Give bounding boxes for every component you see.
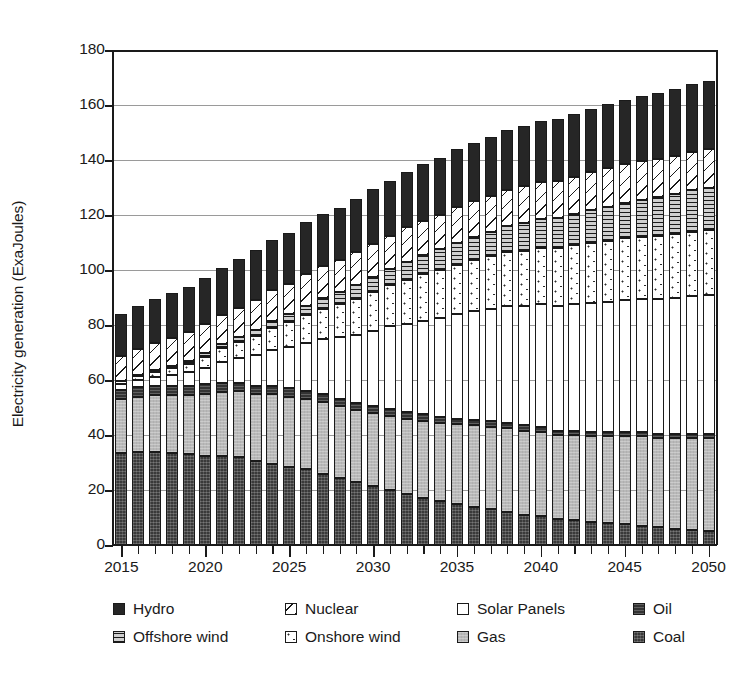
legend-item-oil[interactable]: Oil [633,596,733,622]
bar-segment-gas [132,397,144,452]
legend-item-label: Coal [653,628,685,646]
y-axis-title: Electricity generation (ExaJoules) [1,67,35,562]
bar-segment-solar-panels [300,343,312,391]
bar-segment-hydro [334,208,346,261]
bar-segment-onshore-wind [501,252,513,306]
bar-column [669,50,681,545]
bar-segment-gas [552,435,564,519]
y-tick-label: 0 [45,535,105,553]
bar-segment-hydro [233,259,245,308]
bar-segment-oil [568,431,580,435]
bar-segment-oil [636,432,648,436]
legend-item-onshore-wind[interactable]: Onshore wind [285,624,457,650]
x-tick-mark [222,545,223,554]
bar-segment-solar-panels [468,311,480,420]
legend-item-nuclear[interactable]: Nuclear [285,596,457,622]
bar-segment-nuclear [401,227,413,261]
bar-segment-onshore-wind [384,285,396,326]
bar-segment-offshore-wind [585,210,597,243]
bar-segment-offshore-wind [183,361,195,363]
bar-segment-offshore-wind [518,223,530,251]
bar-segment-hydro [417,164,429,220]
bar-column [199,50,211,545]
bar-segment-oil [686,434,698,438]
y-tick-label: 20 [45,480,105,498]
bar-segment-hydro [300,222,312,274]
bar-segment-solar-panels [183,372,195,386]
bar-segment-solar-panels [602,302,614,433]
x-tick-mark [524,545,525,554]
x-tick-mark [692,545,693,554]
legend-swatch-icon [457,603,469,615]
bar-segment-hydro [686,84,698,151]
y-tick-label: 60 [45,370,105,388]
bar-segment-onshore-wind [485,256,497,308]
bar-segment-oil [350,403,362,410]
bar-segment-nuclear [552,181,564,218]
bar-segment-solar-panels [669,298,681,434]
bar-segment-coal [485,509,497,545]
x-tick-label: 2015 [86,558,156,576]
bar-segment-nuclear [149,343,161,371]
bar-segment-gas [485,427,497,510]
legend-swatch-icon [113,603,125,615]
x-tick-mark [541,545,543,557]
bar-segment-offshore-wind [619,203,631,239]
bar-segment-oil [149,386,161,396]
bar-segment-nuclear [216,315,228,344]
bar-column [283,50,295,545]
bar-segment-coal [451,504,463,545]
bar-segment-onshore-wind [300,315,312,343]
bar-segment-offshore-wind [300,306,312,316]
bar-segment-nuclear [485,196,497,232]
bar-segment-hydro [283,233,295,284]
x-tick-mark [306,545,307,554]
bar-segment-onshore-wind [183,364,195,372]
bar-segment-nuclear [233,308,245,337]
x-tick-mark [239,545,240,554]
bar-segment-nuclear [166,338,178,366]
legend-item-hydro[interactable]: Hydro [113,596,285,622]
bar-segment-coal [283,467,295,545]
y-tick-label: 40 [45,425,105,443]
bar-segment-onshore-wind [669,234,681,297]
bar-segment-onshore-wind [367,292,379,331]
bar-segment-coal [401,494,413,545]
bar-segment-oil [535,427,547,433]
x-tick-label: 2045 [590,558,660,576]
x-tick-mark [121,545,123,557]
legend-swatch-icon [457,631,469,643]
bar-segment-gas [652,438,664,527]
bar-segment-hydro [216,268,228,316]
bar-segment-offshore-wind [334,292,346,304]
bar-segment-onshore-wind [636,237,648,299]
bar-column [401,50,413,545]
bar-column [317,50,329,545]
bar-segment-offshore-wind [501,226,513,252]
x-tick-mark [558,545,559,554]
bar-column [132,50,144,545]
axis-line-left [112,50,114,545]
bar-segment-hydro [115,314,127,356]
legend-item-offshore-wind[interactable]: Offshore wind [113,624,285,650]
bar-segment-gas [367,413,379,486]
bar-segment-coal [602,523,614,545]
x-tick-label: 2030 [338,558,408,576]
bar-segment-gas [417,421,429,498]
bar-segment-offshore-wind [552,218,564,248]
bar-segment-nuclear [434,215,446,249]
bar-segment-coal [300,469,312,545]
legend-item-gas[interactable]: Gas [457,624,633,650]
legend-item-coal[interactable]: Coal [633,624,733,650]
bar-segment-coal [568,520,580,545]
bar-segment-gas [568,435,580,520]
legend-item-label: Offshore wind [133,628,228,646]
legend-item-solar-panels[interactable]: Solar Panels [457,596,633,622]
bar-segment-solar-panels [568,304,580,431]
bar-segment-gas [266,394,278,464]
bar-segment-coal [250,461,262,545]
bar-segment-onshore-wind [535,248,547,304]
bar-segment-coal [434,501,446,545]
bar-segment-solar-panels [451,314,463,419]
bar-segment-oil [233,383,245,391]
